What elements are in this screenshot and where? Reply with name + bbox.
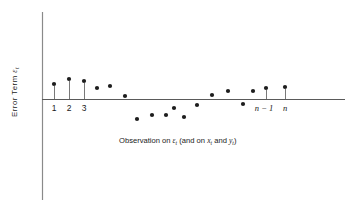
data-point [226, 89, 230, 93]
data-point [135, 117, 139, 121]
x-axis-caption: Observation on εt (and on xt and yt) [119, 136, 237, 146]
x-tick-label: n − 1 [255, 103, 274, 113]
x-tick-labels-group: 123n − 1n [52, 103, 287, 113]
data-point [123, 94, 127, 98]
data-point [52, 82, 56, 86]
data-point [82, 79, 86, 83]
plot-canvas: 123n − 1n Error Term εt Observation on ε… [0, 0, 362, 210]
y-axis-label-lead: Error Term [10, 73, 19, 117]
data-point [195, 103, 199, 107]
data-point [164, 113, 168, 117]
data-point [283, 85, 287, 89]
data-point [182, 115, 186, 119]
y-axis-label: Error Term εt [10, 67, 20, 117]
data-point [67, 77, 71, 81]
caption-lead: Observation on [119, 136, 173, 145]
caption-and: and [212, 136, 229, 145]
y-axis-label-epsilon-sub: t [14, 67, 20, 69]
data-point [150, 113, 154, 117]
data-point [210, 93, 214, 97]
data-point [251, 89, 255, 93]
data-point [108, 84, 112, 88]
x-tick-label: 3 [82, 103, 87, 113]
data-point [241, 102, 245, 106]
x-tick-label: 1 [52, 103, 57, 113]
caption-mid: (and on [177, 136, 207, 145]
x-tick-label: 2 [67, 103, 72, 113]
data-point [172, 106, 176, 110]
caption-close: ) [234, 136, 237, 145]
x-tick-label: n [283, 103, 287, 113]
scatter-plot-figure: 123n − 1n Error Term εt Observation on ε… [0, 0, 362, 210]
data-point [264, 86, 268, 90]
point-stems-group [55, 81, 286, 99]
data-point [95, 86, 99, 90]
